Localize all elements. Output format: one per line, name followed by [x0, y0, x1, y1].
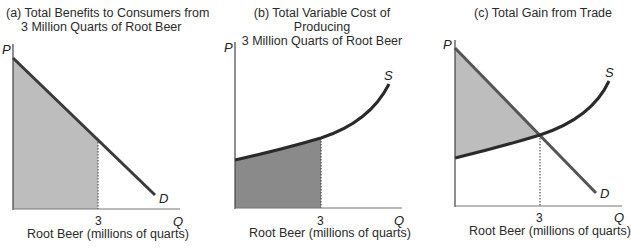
panel-c-y-axis-label: P	[443, 37, 452, 52]
panel-b-x-caption: Root Beer (millions of quarts)	[249, 226, 411, 240]
panel-c-x-caption: Root Beer (millions of quarts)	[469, 224, 631, 238]
panel-b-chart: P Q S 3	[224, 40, 404, 228]
panel-c-supply-label: S	[605, 65, 614, 80]
panel-a-demand-label: D	[159, 191, 168, 206]
panel-a-x-caption: Root Beer (millions of quarts)	[27, 227, 189, 241]
panel-c-x-axis-label: Q	[614, 210, 624, 225]
panel-a-y-axis-label: P	[2, 42, 11, 57]
panel-a-consumer-benefit-area	[13, 58, 98, 209]
panel-c-chart: P Q D S 3	[443, 37, 624, 225]
panel-b-y-axis-label: P	[224, 40, 233, 55]
panel-c-tick-3: 3	[536, 211, 543, 225]
panel-c-demand-label: D	[600, 186, 609, 201]
panel-a-chart: P Q D 3	[2, 42, 183, 229]
panel-a-tick-3: 3	[95, 214, 102, 228]
panel-b-supply-label: S	[384, 68, 393, 83]
panel-c-gain-from-trade-area	[455, 48, 540, 158]
